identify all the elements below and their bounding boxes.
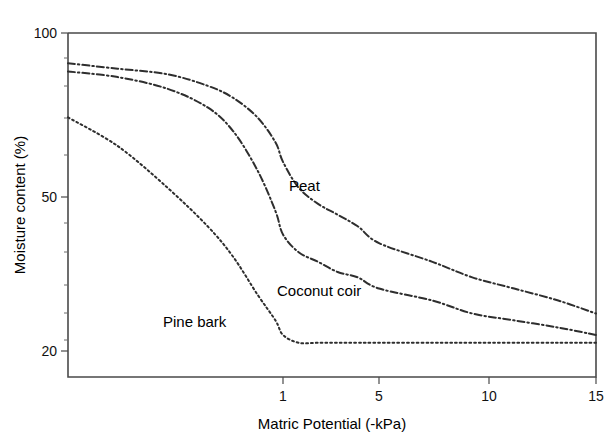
x-tick-label-1: 1 — [279, 388, 287, 404]
y-tick-label-20: 20 — [41, 343, 57, 359]
plot-border — [68, 33, 596, 377]
chart-canvas: 100 50 20 1 5 10 15 Matric Potential (-k… — [0, 0, 615, 445]
series-annotation-peat: Peat — [289, 177, 321, 194]
x-tick-label-15: 15 — [588, 388, 604, 404]
series-annotation-coconut-coir: Coconut coir — [277, 282, 361, 299]
x-axis-title: Matric Potential (-kPa) — [258, 415, 406, 432]
y-axis-title: Moisture content (%) — [11, 136, 28, 274]
series-curves — [68, 63, 596, 343]
plot-frame — [68, 33, 596, 377]
x-tick-label-5: 5 — [375, 388, 383, 404]
series-annotation-pine-bark: Pine bark — [163, 313, 227, 330]
x-axis-ticks — [283, 377, 596, 384]
y-tick-label-50: 50 — [41, 189, 57, 205]
y-tick-label-100: 100 — [34, 25, 58, 41]
x-tick-label-10: 10 — [481, 388, 497, 404]
water-retention-chart-figure: 100 50 20 1 5 10 15 Matric Potential (-k… — [0, 0, 615, 445]
series-line-pine-bark — [68, 117, 596, 343]
series-line-peat — [68, 63, 596, 313]
y-axis-major-ticks — [61, 33, 68, 351]
